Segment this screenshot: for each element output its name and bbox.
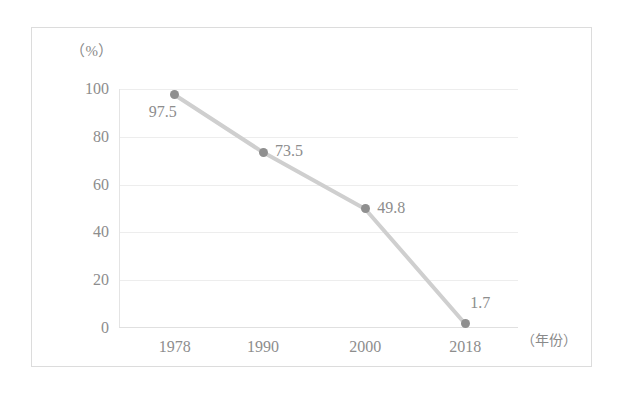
x-axis-unit-label: （年份）	[521, 329, 577, 349]
x-axis-tick-label: 1990	[247, 338, 279, 356]
chart-frame: （%） （年份） 020406080100 1978199020002018 9…	[31, 27, 592, 367]
y-axis-tick-label: 40	[93, 223, 109, 241]
y-axis-tick-label: 20	[93, 271, 109, 289]
plot-area: 020406080100 1978199020002018 97.573.549…	[119, 89, 518, 328]
y-axis-unit-label: （%）	[70, 39, 114, 60]
data-point-marker	[259, 148, 268, 157]
y-axis-tick-label: 100	[85, 80, 109, 98]
x-axis-tick-label: 1978	[159, 338, 191, 356]
data-value-label: 49.8	[377, 199, 405, 217]
data-value-label: 97.5	[149, 103, 177, 121]
y-axis-tick-label: 60	[93, 176, 109, 194]
y-axis-tick-label: 80	[93, 128, 109, 146]
data-value-label: 1.7	[470, 294, 490, 312]
x-axis-tick-label: 2000	[349, 338, 381, 356]
data-value-label: 73.5	[275, 142, 303, 160]
series-line	[119, 89, 518, 328]
x-axis-tick-label: 2018	[449, 338, 481, 356]
y-axis-tick-label: 0	[101, 319, 109, 337]
